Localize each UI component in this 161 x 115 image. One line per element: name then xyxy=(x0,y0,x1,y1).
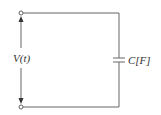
voltage-label: V(t) xyxy=(13,52,30,65)
top-terminal xyxy=(19,11,23,15)
circuit-diagram: V(t) C[F] xyxy=(0,0,161,115)
bottom-terminal xyxy=(19,105,23,109)
arrow-down-icon xyxy=(19,98,24,104)
arrow-up-icon xyxy=(19,16,24,22)
capacitor-label: C[F] xyxy=(128,54,151,66)
